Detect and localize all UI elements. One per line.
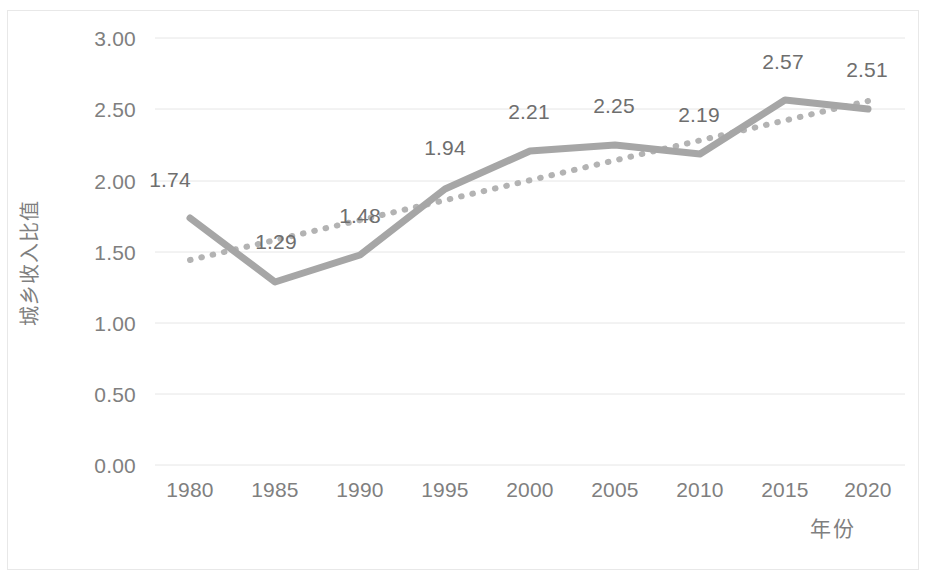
xtick-label-2010: 2010 (655, 478, 745, 502)
data-label-1980: 1.74 (135, 168, 205, 192)
ytick-label-3-00: 3.00 (50, 27, 136, 51)
data-label-2015: 2.57 (748, 50, 818, 74)
xtick-label-2000: 2000 (485, 478, 575, 502)
data-label-1990: 1.48 (325, 204, 395, 228)
ytick-label-1-00: 1.00 (50, 312, 136, 336)
xtick-label-1985: 1985 (230, 478, 320, 502)
data-label-1995: 1.94 (410, 136, 480, 160)
data-label-1985: 1.29 (241, 230, 311, 254)
xtick-label-2015: 2015 (740, 478, 830, 502)
xtick-label-1990: 1990 (315, 478, 405, 502)
xtick-label-1980: 1980 (145, 478, 235, 502)
data-label-2020: 2.51 (832, 58, 902, 82)
data-label-2005: 2.25 (579, 94, 649, 118)
ytick-label-2-50: 2.50 (50, 98, 136, 122)
ytick-label-0-50: 0.50 (50, 383, 136, 407)
ytick-label-0-00: 0.00 (50, 454, 136, 478)
xtick-label-1995: 1995 (400, 478, 490, 502)
x-axis-title: 年份 (810, 512, 856, 542)
data-label-2010: 2.19 (664, 103, 734, 127)
xtick-label-2005: 2005 (570, 478, 660, 502)
ytick-label-2-00: 2.00 (50, 170, 136, 194)
data-label-2000: 2.21 (494, 100, 564, 124)
chart-container: 3.00 2.50 2.00 1.50 1.00 0.50 0.00 1980 … (0, 0, 926, 580)
xtick-label-2020: 2020 (823, 478, 913, 502)
ytick-label-1-50: 1.50 (50, 241, 136, 265)
y-axis-title: 城乡收入比值 (14, 183, 43, 343)
